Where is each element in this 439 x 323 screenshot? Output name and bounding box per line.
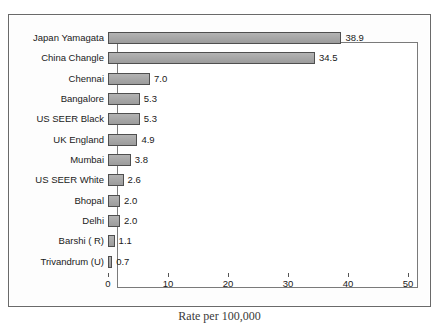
bar-row: Delhi2.0 (8, 211, 431, 231)
x-axis-tick-label: 40 (343, 278, 354, 289)
bar[interactable] (108, 134, 137, 146)
bar-rows: Japan Yamagata38.9China Changle34.5Chenn… (8, 28, 431, 272)
bar-value-label: 34.5 (319, 53, 338, 63)
category-label: UK England (8, 135, 104, 145)
bar-value-label: 5.3 (144, 114, 157, 124)
bar-row: Mumbai3.8 (8, 150, 431, 170)
bar-container: 34.5 (108, 48, 338, 68)
bar[interactable] (108, 235, 115, 247)
bar-value-label: 38.9 (345, 33, 364, 43)
bar-value-label: 4.9 (141, 135, 154, 145)
chart-title (0, 0, 439, 6)
bar-container: 4.9 (108, 130, 155, 150)
bar[interactable] (108, 113, 140, 125)
category-label: US SEER White (8, 175, 104, 185)
bar-value-label: 5.3 (144, 94, 157, 104)
bar-value-label: 7.0 (154, 74, 167, 84)
bar-row: Trivandrum (U)0.7 (8, 252, 431, 272)
x-axis-tick-label: 30 (283, 278, 294, 289)
category-label: China Changle (8, 53, 104, 63)
x-axis-tick (228, 273, 229, 277)
bar-row: Japan Yamagata38.9 (8, 28, 431, 48)
category-label: Mumbai (8, 155, 104, 165)
bar[interactable] (108, 215, 120, 227)
category-label: Chennai (8, 74, 104, 84)
bar-row: China Changle34.5 (8, 48, 431, 68)
category-label: Bangalore (8, 94, 104, 104)
bar-value-label: 2.6 (128, 175, 141, 185)
x-axis-tick (168, 273, 169, 277)
category-label: Delhi (8, 216, 104, 226)
category-label: Bhopal (8, 196, 104, 206)
bar-value-label: 0.7 (116, 257, 129, 267)
x-axis-tick-label: 20 (223, 278, 234, 289)
bar-row: US SEER White2.6 (8, 170, 431, 190)
category-label: US SEER Black (8, 114, 104, 124)
bar-container: 38.9 (108, 28, 364, 48)
bar-row: Bangalore5.3 (8, 89, 431, 109)
category-label: Barshi ( R) (8, 236, 104, 246)
bar-value-label: 1.1 (119, 236, 132, 246)
bar[interactable] (108, 195, 120, 207)
bar[interactable] (108, 52, 315, 64)
bar[interactable] (108, 93, 140, 105)
bar-value-label: 2.0 (124, 216, 137, 226)
bar[interactable] (108, 256, 112, 268)
x-axis-tick (288, 273, 289, 277)
x-axis-tick (408, 273, 409, 277)
bar-container: 7.0 (108, 69, 167, 89)
bar[interactable] (108, 73, 150, 85)
bar-value-label: 3.8 (135, 155, 148, 165)
bar-container: 5.3 (108, 109, 157, 129)
x-axis-tick-label: 10 (163, 278, 174, 289)
category-label: Trivandrum (U) (8, 257, 104, 267)
bar-row: Barshi ( R)1.1 (8, 231, 431, 251)
x-axis-tick (108, 273, 109, 277)
bar-row: Bhopal2.0 (8, 191, 431, 211)
bar-container: 1.1 (108, 231, 132, 251)
bar[interactable] (108, 32, 341, 44)
category-label: Japan Yamagata (8, 33, 104, 43)
x-axis-caption: Rate per 100,000 (0, 310, 439, 323)
bar[interactable] (108, 174, 124, 186)
x-axis-tick-label: 0 (105, 278, 110, 289)
x-axis-tick (348, 273, 349, 277)
bar-value-label: 2.0 (124, 196, 137, 206)
x-axis-tick-label: 50 (403, 278, 414, 289)
x-axis: 01020304050 (108, 273, 409, 297)
bar-row: US SEER Black5.3 (8, 109, 431, 129)
bar[interactable] (108, 154, 131, 166)
bar-container: 3.8 (108, 150, 148, 170)
bar-row: UK England4.9 (8, 130, 431, 150)
bar-container: 0.7 (108, 252, 129, 272)
bar-container: 2.0 (108, 211, 137, 231)
bar-container: 2.6 (108, 170, 141, 190)
bar-container: 5.3 (108, 89, 157, 109)
bar-container: 2.0 (108, 191, 137, 211)
bar-row: Chennai7.0 (8, 69, 431, 89)
